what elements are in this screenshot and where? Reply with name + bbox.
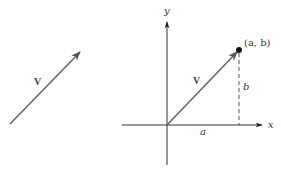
- coordinate-axes: [122, 22, 262, 165]
- point-dot: [236, 47, 242, 53]
- free-vector-arrow: [10, 52, 80, 124]
- x-axis-label: x: [268, 120, 274, 130]
- y-axis-label: y: [164, 6, 170, 16]
- free-vector: [10, 52, 80, 124]
- vector-diagram: [0, 0, 281, 174]
- free-vector-label: V: [34, 77, 41, 87]
- horizontal-component-label: a: [200, 127, 206, 137]
- position-vector-arrow: [167, 52, 237, 125]
- position-vector-label: V: [193, 76, 200, 86]
- point-label: (a, b): [244, 38, 271, 48]
- position-vector: [167, 52, 237, 125]
- vertical-component-label: b: [243, 82, 249, 92]
